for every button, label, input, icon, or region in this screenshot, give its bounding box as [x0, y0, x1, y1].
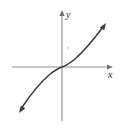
scan-speck [67, 47, 69, 49]
coordinate-plane-svg: y x [0, 0, 122, 128]
y-axis-label: y [65, 9, 71, 20]
x-axis-label: x [107, 69, 113, 80]
y-axis-arrow-icon [59, 10, 64, 16]
graph-figure: y x [0, 0, 122, 128]
curve-arrow-start-icon [19, 106, 25, 113]
